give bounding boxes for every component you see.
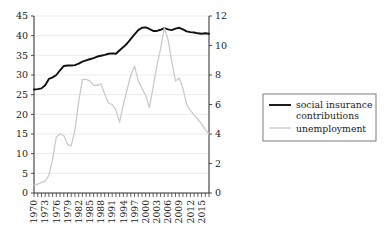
x-axis-tick-label: 1985: [84, 200, 95, 224]
right-axis-tick-label: 8: [215, 69, 221, 80]
left-axis-tick-label: 10: [16, 148, 28, 159]
left-axis-tick-label: 45: [16, 10, 28, 21]
right-axis-tick-label: 0: [215, 187, 221, 198]
legend-label-social-insurance-contributions-line2: contributions: [296, 110, 359, 121]
left-axis-tick-label: 15: [16, 128, 28, 139]
left-axis: 051015202530354045: [16, 10, 34, 198]
right-axis-tick-label: 12: [215, 10, 227, 21]
right-axis-tick-label: 4: [215, 128, 221, 139]
left-axis-tick-label: 20: [16, 109, 28, 120]
x-axis-tick-label: 2006: [162, 200, 173, 224]
x-axis-tick-label: 1979: [62, 200, 73, 224]
plot-background: [34, 16, 209, 193]
x-axis-tick-label: 2015: [196, 200, 207, 224]
legend-label-social-insurance-contributions-line1: social insurance: [296, 99, 373, 110]
right-axis-tick-label: 6: [215, 99, 221, 110]
x-axis-tick-label: 1976: [51, 200, 62, 224]
left-axis-tick-label: 30: [16, 69, 28, 80]
left-axis-tick-label: 0: [22, 187, 28, 198]
x-axis-tick-label: 1973: [39, 200, 50, 224]
right-axis-tick-label: 2: [215, 158, 221, 169]
x-axis-tick-label: 2009: [173, 200, 184, 224]
x-axis-tick-label: 1994: [118, 200, 129, 224]
x-axis-tick-label: 1991: [106, 200, 117, 223]
line-chart-svg: 051015202530354045 024681012 19701973197…: [0, 0, 384, 241]
legend-label-unemployment: unemployment: [296, 123, 366, 134]
chart-legend: social insurancecontributionsunemploymen…: [263, 94, 376, 141]
x-axis-tick-label: 1997: [129, 200, 140, 224]
x-axis-tick-label: 1988: [95, 200, 106, 224]
left-axis-tick-label: 25: [16, 89, 28, 100]
x-axis: 1970197319761979198219851988199119941997…: [28, 193, 209, 223]
right-axis-tick-label: 10: [215, 40, 227, 51]
right-axis: 024681012: [209, 10, 227, 198]
x-axis-tick-label: 2003: [151, 200, 162, 224]
x-axis-tick-label: 1982: [73, 200, 84, 223]
left-axis-tick-label: 35: [16, 50, 28, 61]
x-axis-tick-label: 2000: [140, 200, 151, 224]
x-axis-tick-label: 1970: [28, 200, 39, 224]
left-axis-tick-label: 5: [22, 168, 28, 179]
chart-figure: 051015202530354045 024681012 19701973197…: [0, 0, 384, 241]
x-axis-tick-label: 2012: [185, 200, 196, 223]
left-axis-tick-label: 40: [16, 30, 28, 41]
